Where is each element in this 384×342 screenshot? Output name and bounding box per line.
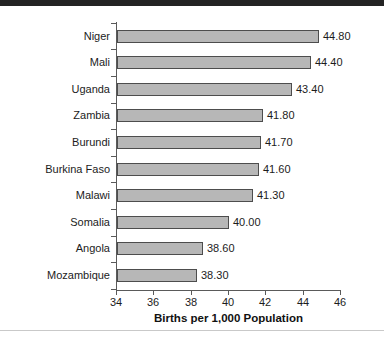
x-axis-tick	[265, 290, 266, 295]
bar-value-label: 44.40	[315, 56, 343, 69]
bar-value-label: 41.30	[257, 189, 285, 202]
bar	[117, 136, 261, 149]
bar-value-label: 40.00	[233, 216, 261, 229]
bar	[117, 109, 263, 122]
bar-chart-plot-area: 34363840424446Niger44.80Mali44.40Uganda4…	[0, 0, 384, 342]
category-label: Malawi	[0, 189, 110, 202]
bar	[117, 30, 319, 43]
y-axis-tick	[111, 289, 116, 290]
y-axis-tick	[111, 49, 116, 50]
bar-value-label: 44.80	[323, 30, 351, 43]
bar	[117, 163, 259, 176]
y-axis-tick	[111, 76, 116, 77]
y-axis-tick	[111, 103, 116, 104]
x-axis-tick	[191, 290, 192, 295]
category-label: Zambia	[0, 109, 110, 122]
x-axis-tick-label: 38	[176, 296, 206, 309]
category-label: Burkina Faso	[0, 163, 110, 176]
x-axis-tick-label: 36	[138, 296, 168, 309]
x-axis-tick	[303, 290, 304, 295]
bar-value-label: 38.30	[201, 269, 229, 282]
bar-value-label: 41.60	[263, 163, 291, 176]
category-label: Mozambique	[0, 269, 110, 282]
x-axis-tick-label: 40	[213, 296, 243, 309]
y-axis-tick	[111, 129, 116, 130]
x-axis-tick-label: 46	[325, 296, 355, 309]
x-axis-tick	[340, 290, 341, 295]
x-axis-title: Births per 1,000 Population	[116, 311, 341, 325]
chart-page: 34363840424446Niger44.80Mali44.40Uganda4…	[0, 0, 384, 342]
bar-value-label: 41.70	[265, 136, 293, 149]
y-axis-tick	[111, 236, 116, 237]
category-label: Uganda	[0, 83, 110, 96]
category-label: Burundi	[0, 136, 110, 149]
category-label: Somalia	[0, 216, 110, 229]
x-axis-tick-label: 44	[288, 296, 318, 309]
x-axis-tick-label: 42	[250, 296, 280, 309]
y-axis-tick	[111, 209, 116, 210]
bar-value-label: 43.40	[296, 83, 324, 96]
y-axis-tick	[111, 182, 116, 183]
bar-value-label: 41.80	[267, 109, 295, 122]
x-axis-tick	[153, 290, 154, 295]
category-label: Niger	[0, 30, 110, 43]
bar	[117, 83, 292, 96]
y-axis-tick	[111, 23, 116, 24]
bar-value-label: 38.60	[207, 242, 235, 255]
bar	[117, 56, 311, 69]
bar	[117, 189, 253, 202]
y-axis-tick	[111, 262, 116, 263]
category-label: Angola	[0, 242, 110, 255]
bar	[117, 216, 229, 229]
x-axis-tick	[116, 290, 117, 295]
bar	[117, 269, 197, 282]
y-axis-tick	[111, 156, 116, 157]
x-axis-tick	[228, 290, 229, 295]
bar	[117, 242, 203, 255]
x-axis-tick-label: 34	[101, 296, 131, 309]
bottom-divider-rule	[0, 330, 384, 331]
category-label: Mali	[0, 56, 110, 69]
